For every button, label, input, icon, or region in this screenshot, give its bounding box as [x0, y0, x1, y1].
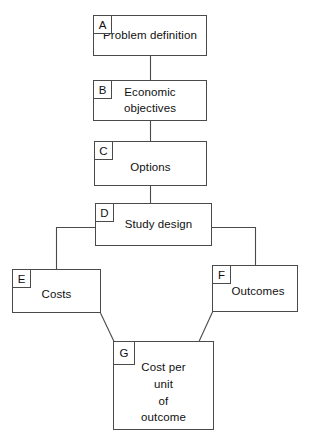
node-label-study-design: Study design: [111, 217, 197, 232]
edge-e-to-g: [101, 313, 115, 342]
node-tag-e: E: [12, 269, 31, 288]
node-cost-per-unit-of-outcome[interactable]: G Cost perunitofoutcome: [113, 341, 214, 430]
node-study-design[interactable]: D Study design: [95, 203, 212, 246]
node-label-cost-per-unit-of-outcome: Cost perunitofoutcome: [137, 345, 190, 426]
node-tag-f: F: [212, 265, 231, 284]
node-options[interactable]: C Options: [94, 141, 207, 186]
edge-d-to-e: [57, 228, 96, 270]
flowchart-diagram: A Problem definition B Economic objectiv…: [0, 0, 310, 440]
node-label-problem-definition: Problem definition: [99, 28, 201, 43]
node-tag-d: D: [95, 203, 114, 222]
node-problem-definition[interactable]: A Problem definition: [93, 15, 207, 56]
node-tag-c: C: [94, 141, 113, 160]
edge-d-to-f: [212, 228, 256, 266]
node-label-costs: Costs: [38, 279, 76, 302]
edge-f-to-g: [199, 312, 213, 342]
node-economic-objectives[interactable]: B Economic objectives: [93, 80, 207, 121]
node-label-options: Options: [126, 152, 174, 175]
node-costs[interactable]: E Costs: [12, 269, 101, 313]
node-tag-g: G: [113, 341, 135, 365]
node-label-outcomes: Outcomes: [221, 278, 288, 299]
node-tag-a: A: [93, 15, 112, 34]
node-outcomes[interactable]: F Outcomes: [212, 265, 298, 312]
node-tag-b: B: [93, 80, 112, 99]
